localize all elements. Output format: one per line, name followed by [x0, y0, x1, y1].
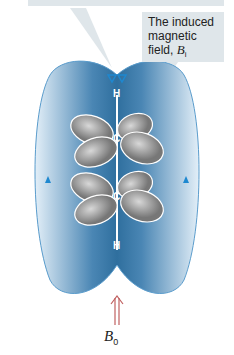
induced-field-label: The induced magnetic field, Bi [142, 12, 224, 62]
subscript: i [185, 50, 187, 59]
atom-h-top: H [113, 88, 120, 99]
label-line: The induced [148, 15, 214, 29]
symbol: B [177, 42, 185, 57]
atom-c-top: C [113, 133, 120, 144]
atom-c-bottom: C [113, 191, 120, 202]
applied-field-arrow [111, 296, 123, 325]
label-line: magnetic [148, 29, 197, 43]
callout-pointer-top [70, 8, 112, 68]
applied-field-label: B0 [104, 328, 118, 347]
atom-h-bottom: H [113, 240, 120, 251]
subscript: 0 [113, 337, 118, 347]
label-line: field, [148, 43, 177, 57]
symbol: B [104, 328, 113, 344]
